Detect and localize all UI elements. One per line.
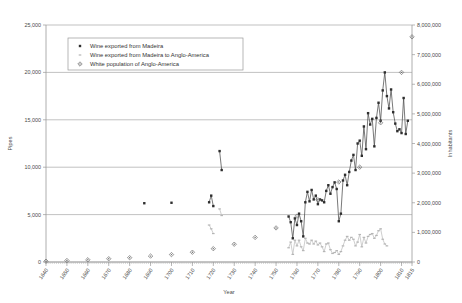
data-point-marker <box>379 228 382 229</box>
y-tick-label-left: 5,000 <box>28 212 42 218</box>
y-tick-label-left: 20,000 <box>25 69 42 75</box>
x-tick-label: 1815 <box>404 267 416 280</box>
x-tick-label: 1750 <box>268 267 280 280</box>
data-point-marker <box>365 242 368 243</box>
data-point-marker-center <box>380 122 381 123</box>
data-point-marker <box>289 241 292 242</box>
x-tick-label: 1720 <box>205 267 217 280</box>
data-point-marker <box>405 133 407 135</box>
data-point-marker <box>377 230 380 231</box>
data-point-marker <box>402 97 404 99</box>
data-point-marker <box>300 220 302 222</box>
data-point-marker <box>358 234 361 235</box>
x-tick-label: 1790 <box>351 267 363 280</box>
data-point-marker <box>371 233 374 234</box>
data-point-marker <box>375 117 377 119</box>
data-point-marker <box>287 215 289 217</box>
data-point-marker <box>382 89 384 91</box>
data-point-marker-center <box>108 258 109 259</box>
y-tick-label-right: 5,000,000 <box>417 111 441 117</box>
data-point-marker <box>289 221 291 223</box>
x-tick-label: 1810 <box>393 267 405 280</box>
data-point-marker <box>396 130 398 132</box>
data-point-marker <box>287 247 290 248</box>
x-tick-label: 1770 <box>309 267 321 280</box>
data-point-marker <box>310 189 312 191</box>
x-tick-label: 1760 <box>288 267 300 280</box>
data-point-marker <box>312 243 315 244</box>
data-point-marker <box>210 194 212 196</box>
data-point-marker <box>392 111 394 113</box>
x-tick-label: 1730 <box>226 267 238 280</box>
data-point-marker <box>348 240 351 241</box>
y-tick-label-left: 10,000 <box>25 164 42 170</box>
data-point-marker <box>390 88 392 90</box>
data-point-marker <box>327 184 329 186</box>
series-polyline <box>289 72 408 238</box>
legend-marker <box>79 54 82 55</box>
data-point-marker <box>346 184 348 186</box>
y-tick-label-right: 4,000,000 <box>417 141 441 147</box>
data-point-marker <box>327 242 330 243</box>
data-point-marker <box>298 212 300 214</box>
data-point-marker <box>354 169 356 171</box>
data-point-marker <box>344 174 346 176</box>
data-point-marker <box>294 240 297 241</box>
x-axis-title: Year <box>223 289 234 295</box>
x-tick-label: 1700 <box>163 267 175 280</box>
data-point-marker <box>291 254 294 255</box>
data-point-marker <box>363 125 365 127</box>
data-point-marker <box>367 112 369 114</box>
data-point-marker <box>354 245 357 246</box>
data-point-marker <box>375 235 378 236</box>
data-point-marker <box>302 235 304 237</box>
data-point-marker <box>300 246 303 247</box>
data-point-marker <box>377 102 379 104</box>
legend-marker <box>79 45 81 47</box>
data-point-marker <box>388 107 390 109</box>
data-point-marker-center <box>317 199 318 200</box>
data-point-marker-center <box>234 244 235 245</box>
chart-figure: 05,00010,00015,00020,00025,00001,000,000… <box>0 0 462 303</box>
y-tick-label-right: 0 <box>417 259 420 265</box>
data-point-marker-center <box>192 252 193 253</box>
data-point-marker <box>384 243 387 244</box>
y-tick-label-right: 3,000,000 <box>417 170 441 176</box>
data-point-marker <box>329 193 331 195</box>
data-point-marker <box>367 236 370 237</box>
data-point-marker <box>400 132 402 134</box>
data-point-marker <box>363 237 366 238</box>
x-tick-label: 1650 <box>58 267 70 280</box>
data-point-marker <box>212 233 215 234</box>
data-point-marker <box>323 251 326 252</box>
data-point-marker-center <box>338 181 339 182</box>
data-point-marker <box>371 118 373 120</box>
data-point-marker-center <box>401 72 402 73</box>
x-tick-label: 1780 <box>330 267 342 280</box>
data-point-marker <box>143 202 145 204</box>
data-point-marker <box>356 241 359 242</box>
data-point-marker <box>308 200 310 202</box>
data-point-marker <box>310 240 313 241</box>
y-axis-title-left: Pipes <box>7 136 13 150</box>
data-point-marker <box>398 128 400 130</box>
x-tick-label: 1640 <box>38 267 50 280</box>
data-point-marker <box>321 246 324 247</box>
legend-label: Wine exported from Madeira to Anglo-Amer… <box>90 52 210 58</box>
x-tick-label: 1660 <box>79 267 91 280</box>
y-tick-label-left: 25,000 <box>25 22 42 28</box>
data-point-marker <box>338 220 340 222</box>
data-point-marker-center <box>171 254 172 255</box>
x-tick-label: 1740 <box>247 267 259 280</box>
data-point-marker <box>365 148 367 150</box>
data-point-marker <box>344 240 347 241</box>
data-point-marker <box>350 159 352 161</box>
data-point-marker <box>352 154 354 156</box>
legend-label: Wine exported from Madeira <box>90 43 164 49</box>
data-point-marker <box>315 194 317 196</box>
data-point-marker <box>333 252 336 253</box>
y-tick-label-right: 6,000,000 <box>417 81 441 87</box>
data-point-marker <box>394 122 396 124</box>
data-point-marker <box>335 250 338 251</box>
data-point-marker <box>369 123 371 125</box>
